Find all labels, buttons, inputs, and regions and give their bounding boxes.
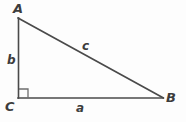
side-label-a: a xyxy=(76,102,84,114)
side-label-c: c xyxy=(82,40,89,52)
triangle-drawing xyxy=(0,0,186,122)
side-label-b: b xyxy=(7,54,16,66)
vertex-label-c: C xyxy=(5,100,15,113)
right-triangle-figure: A B C a b c xyxy=(0,0,186,122)
vertex-label-a: A xyxy=(13,2,23,15)
right-angle-marker xyxy=(19,89,28,98)
vertex-label-b: B xyxy=(166,91,176,104)
side-c-line xyxy=(18,18,164,98)
